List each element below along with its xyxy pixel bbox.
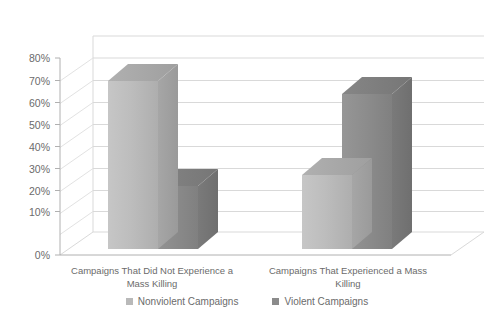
y-tick-label: 0% bbox=[35, 249, 50, 261]
y-tick-label: 40% bbox=[29, 141, 50, 153]
legend-swatch-icon bbox=[126, 298, 133, 305]
plot-area: 80% 70% 60% 50% 40% 30% 20% 10% 0% bbox=[0, 0, 494, 295]
bar-group2-nonviolent bbox=[302, 158, 372, 249]
bar-group1-nonviolent bbox=[108, 64, 178, 249]
y-tick-label: 20% bbox=[29, 185, 50, 197]
y-tick-label: 80% bbox=[29, 52, 50, 64]
y-tick-label: 50% bbox=[29, 119, 50, 131]
legend-swatch-icon bbox=[272, 298, 279, 305]
category-label-line: Campaigns That Experienced a Mass bbox=[269, 265, 427, 276]
legend-label: Nonviolent Campaigns bbox=[138, 296, 239, 307]
legend-label: Violent Campaigns bbox=[284, 296, 368, 307]
chart-legend: Nonviolent Campaigns Violent Campaigns bbox=[0, 296, 494, 320]
category-label-line: Campaigns That Did Not Experience a bbox=[71, 265, 234, 276]
category-label-line: Killing bbox=[335, 278, 360, 289]
y-tick-label: 10% bbox=[29, 206, 50, 218]
chart-canvas: 80% 70% 60% 50% 40% 30% 20% 10% 0% bbox=[0, 0, 494, 295]
y-tick-label: 60% bbox=[29, 97, 50, 109]
category-label-line: Mass Killing bbox=[127, 278, 178, 289]
y-axis-tick-labels: 80% 70% 60% 50% 40% 30% 20% 10% 0% bbox=[29, 52, 50, 261]
legend-item-nonviolent[interactable]: Nonviolent Campaigns bbox=[126, 296, 239, 307]
y-tick-label: 70% bbox=[29, 75, 50, 87]
x-axis-category-labels: Campaigns That Did Not Experience a Mass… bbox=[71, 265, 427, 289]
legend-item-violent[interactable]: Violent Campaigns bbox=[272, 296, 368, 307]
bar-chart: 80% 70% 60% 50% 40% 30% 20% 10% 0% bbox=[0, 0, 494, 323]
y-tick-label: 30% bbox=[29, 163, 50, 175]
y-axis bbox=[55, 58, 60, 255]
